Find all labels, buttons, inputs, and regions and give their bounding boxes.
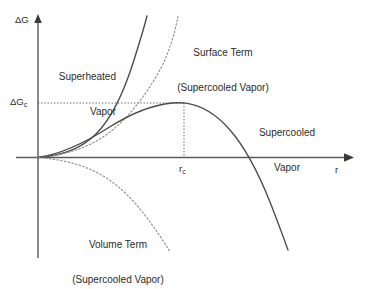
y-axis-arrowhead-icon	[34, 14, 42, 23]
annotation-surface-term-line2: (Supercooled Vapor)	[162, 82, 284, 94]
annotation-superheated-vapor-line2: Vapor	[35, 106, 116, 118]
annotation-volume-term-line1: Volume Term	[57, 239, 179, 251]
delta-gc-tick-label: ΔGc	[10, 96, 27, 109]
delta-gc-tick-label-main: ΔG	[10, 96, 24, 107]
annotation-supercooled-vapor-line1: Supercooled	[232, 127, 342, 139]
annotation-volume-term-line2: (Supercooled Vapor)	[57, 274, 179, 286]
y-axis-label: ΔG	[15, 14, 29, 26]
delta-gc-tick-label-subscript: c	[24, 101, 28, 108]
annotation-superheated-vapor: Superheated Vapor	[35, 48, 116, 140]
annotation-supercooled-vapor-line2: Vapor	[232, 162, 342, 174]
rc-tick-label: rc	[179, 163, 186, 176]
x-axis-arrowhead-icon	[344, 153, 354, 161]
rc-tick-label-subscript: c	[182, 168, 186, 175]
annotation-surface-term-line1: Surface Term	[162, 47, 284, 59]
annotation-surface-term: Surface Term (Supercooled Vapor)	[162, 24, 284, 116]
annotation-volume-term: Volume Term (Supercooled Vapor)	[57, 216, 179, 289]
annotation-superheated-vapor-line1: Superheated	[35, 71, 116, 83]
annotation-supercooled-vapor: Supercooled Vapor	[232, 104, 342, 196]
